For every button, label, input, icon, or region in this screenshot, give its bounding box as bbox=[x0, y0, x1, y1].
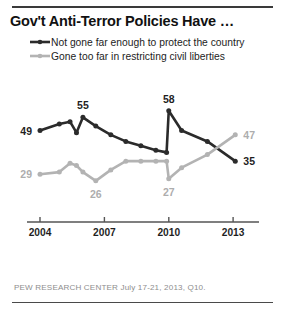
data-point bbox=[38, 128, 43, 133]
legend-item-gone-too-far: Gone too far in restricting civil libert… bbox=[30, 49, 277, 63]
value-label: 29 bbox=[20, 168, 32, 180]
data-point bbox=[138, 159, 143, 164]
data-point bbox=[205, 139, 210, 144]
value-label: 49 bbox=[20, 125, 32, 137]
value-label: 47 bbox=[243, 129, 255, 141]
data-point bbox=[166, 108, 171, 113]
value-label: 55 bbox=[77, 99, 89, 111]
data-point bbox=[108, 167, 113, 172]
data-point bbox=[80, 115, 85, 120]
value-label: 58 bbox=[163, 93, 175, 105]
bottom-divider bbox=[12, 302, 273, 303]
source-footnote: PEW RESEARCH CENTER July 17-21, 2013, Q1… bbox=[14, 283, 206, 292]
data-point bbox=[164, 159, 169, 164]
data-point bbox=[179, 165, 184, 170]
data-point bbox=[138, 143, 143, 148]
x-axis: 2004200720102013 bbox=[27, 217, 259, 238]
data-point bbox=[93, 178, 98, 183]
data-point bbox=[179, 128, 184, 133]
x-axis-label: 2013 bbox=[222, 227, 245, 238]
data-point bbox=[38, 172, 43, 177]
value-label: 27 bbox=[163, 186, 175, 198]
data-point bbox=[153, 148, 158, 153]
value-label: 35 bbox=[243, 155, 255, 167]
data-point bbox=[205, 152, 210, 157]
data-point bbox=[123, 139, 128, 144]
legend-line-marker-gray bbox=[30, 51, 50, 61]
page-title: Gov't Anti-Terror Policies Have … bbox=[10, 13, 277, 29]
legend-label-gone-too-far: Gone too far in restricting civil libert… bbox=[51, 51, 225, 62]
data-point bbox=[233, 132, 238, 137]
legend-line-marker-dark bbox=[30, 37, 50, 47]
data-point bbox=[93, 124, 98, 129]
data-point bbox=[123, 159, 128, 164]
data-point bbox=[68, 161, 73, 166]
series-layer bbox=[38, 108, 238, 183]
x-axis-label: 2007 bbox=[93, 227, 116, 238]
data-point bbox=[166, 176, 171, 181]
x-axis-label: 2004 bbox=[29, 227, 52, 238]
top-divider bbox=[12, 6, 273, 8]
data-point bbox=[68, 119, 73, 124]
data-point bbox=[74, 163, 79, 168]
legend-label-not-far-enough: Not gone far enough to protect the count… bbox=[51, 37, 244, 48]
x-axis-label: 2010 bbox=[157, 227, 180, 238]
line-chart: 4955583529262747 2004200720102013 bbox=[0, 72, 285, 257]
data-point bbox=[108, 132, 113, 137]
data-point bbox=[80, 170, 85, 175]
chart-card: Gov't Anti-Terror Policies Have … Not go… bbox=[0, 0, 285, 311]
chart-legend: Not gone far enough to protect the count… bbox=[30, 35, 277, 63]
data-point bbox=[153, 159, 158, 164]
data-point bbox=[164, 150, 169, 155]
data-point bbox=[233, 159, 238, 164]
data-point bbox=[57, 121, 62, 126]
legend-item-not-far-enough: Not gone far enough to protect the count… bbox=[30, 35, 277, 49]
data-point bbox=[74, 130, 79, 135]
value-label: 26 bbox=[90, 188, 102, 200]
chart-svg: 4955583529262747 2004200720102013 bbox=[0, 72, 285, 257]
data-point bbox=[57, 170, 62, 175]
